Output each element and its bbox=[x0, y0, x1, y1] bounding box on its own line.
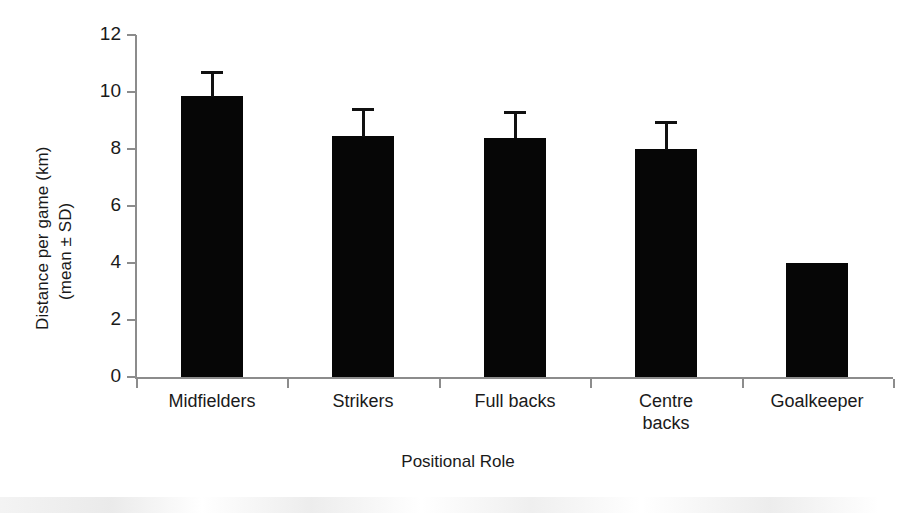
y-tick-0 bbox=[127, 376, 136, 378]
x-category-label-strikers: Strikers bbox=[283, 390, 443, 412]
error-bar-cap-1 bbox=[352, 108, 374, 111]
x-category-label-full-backs: Full backs bbox=[435, 390, 595, 412]
x-category-label-midfielders: Midfielders bbox=[132, 390, 292, 412]
bar-strikers bbox=[332, 136, 394, 377]
bar-goalkeeper bbox=[786, 263, 848, 377]
y-tick-label-10: 10 bbox=[76, 81, 121, 100]
error-bar-cap-0 bbox=[201, 71, 223, 74]
y-tick-8 bbox=[127, 148, 136, 150]
x-category-label-goalkeeper: Goalkeeper bbox=[737, 390, 897, 412]
x-axis-line bbox=[135, 377, 893, 379]
x-category-label-line: Midfielders bbox=[132, 390, 292, 412]
bar-full-backs bbox=[484, 138, 546, 377]
y-tick-label-text: 0 bbox=[81, 366, 121, 385]
y-axis-title-line-2: (mean ± SD) bbox=[56, 203, 76, 300]
x-tick-1 bbox=[287, 379, 289, 388]
y-tick-label-4: 4 bbox=[76, 252, 121, 271]
y-tick-label-8: 8 bbox=[76, 138, 121, 157]
x-category-label-line: Goalkeeper bbox=[737, 390, 897, 412]
x-category-label-line: Full backs bbox=[435, 390, 595, 412]
x-tick-5 bbox=[893, 379, 895, 388]
y-tick-4 bbox=[127, 262, 136, 264]
error-bar-stem-0 bbox=[211, 71, 214, 97]
y-axis-title: Distance per game (km) (mean ± SD) bbox=[0, 0, 70, 400]
x-tick-0 bbox=[136, 379, 138, 388]
x-tick-2 bbox=[439, 379, 441, 388]
bar-chart: Distance per game (km) (mean ± SD) 02468… bbox=[0, 0, 916, 513]
y-tick-label-2: 2 bbox=[76, 309, 121, 328]
x-category-label-line: Strikers bbox=[283, 390, 443, 412]
y-tick-12 bbox=[127, 34, 136, 36]
y-tick-label-text: 4 bbox=[81, 252, 121, 271]
x-category-label-line: backs bbox=[586, 412, 746, 434]
error-bar-stem-2 bbox=[514, 111, 517, 138]
scan-artifact bbox=[0, 497, 916, 513]
x-axis-title: Positional Role bbox=[0, 452, 916, 472]
x-tick-3 bbox=[590, 379, 592, 388]
error-bar-stem-3 bbox=[665, 121, 668, 150]
x-category-label-line: Centre bbox=[586, 390, 746, 412]
y-tick-label-text: 10 bbox=[81, 81, 121, 100]
y-tick-label-text: 2 bbox=[81, 309, 121, 328]
y-tick-label-0: 0 bbox=[76, 366, 121, 385]
x-tick-4 bbox=[742, 379, 744, 388]
bar-centre-backs bbox=[635, 149, 697, 377]
y-tick-6 bbox=[127, 205, 136, 207]
y-tick-label-text: 8 bbox=[81, 138, 121, 157]
y-tick-label-text: 12 bbox=[81, 24, 121, 43]
error-bar-stem-1 bbox=[362, 108, 365, 137]
x-category-label-centre-backs: Centrebacks bbox=[586, 390, 746, 434]
error-bar-cap-3 bbox=[655, 121, 677, 124]
y-tick-label-text: 6 bbox=[81, 195, 121, 214]
y-tick-label-12: 12 bbox=[76, 24, 121, 43]
y-tick-2 bbox=[127, 319, 136, 321]
bar-midfielders bbox=[181, 96, 243, 377]
y-tick-10 bbox=[127, 91, 136, 93]
y-tick-label-6: 6 bbox=[76, 195, 121, 214]
y-axis-title-line-1: Distance per game (km) bbox=[33, 146, 53, 330]
error-bar-cap-2 bbox=[504, 111, 526, 114]
